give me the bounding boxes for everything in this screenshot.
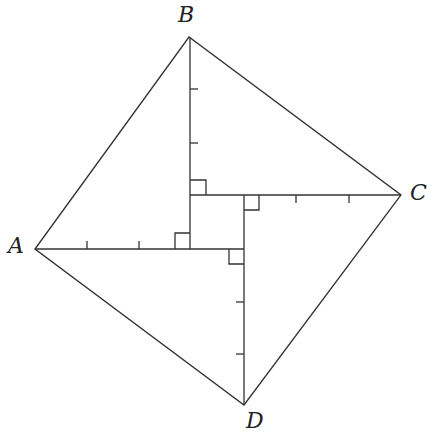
right-angle-mark [244, 195, 259, 210]
right-angle-mark [190, 180, 206, 195]
label-b: B [178, 2, 194, 27]
diagram: B C A D [0, 0, 436, 435]
right-angle-mark [229, 249, 244, 264]
outer-square [35, 37, 401, 405]
label-a: A [8, 233, 24, 258]
geometry-figure [0, 0, 436, 435]
right-angle-mark [175, 233, 190, 249]
label-c: C [410, 180, 427, 205]
label-d: D [246, 408, 264, 433]
